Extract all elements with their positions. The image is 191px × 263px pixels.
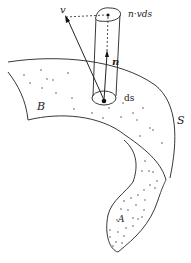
cap-center-point (106, 13, 109, 16)
surface-s-left-edge (8, 72, 28, 120)
cylinder-right-wall (116, 14, 120, 96)
surface-s-outer-edge (8, 59, 175, 178)
label-a: A (118, 215, 125, 224)
label-s: S (177, 115, 185, 126)
cylinder-left-wall (93, 17, 96, 96)
surface-s-inner-edge (28, 116, 166, 180)
normal-vector-n (104, 54, 107, 100)
label-ds: ds (124, 94, 134, 103)
label-n: n (112, 57, 119, 67)
normal-arrowhead-icon (105, 50, 109, 57)
label-b: B (37, 101, 45, 112)
region-a-outline (107, 140, 166, 252)
label-n-v-ds: n·vds (128, 10, 152, 19)
diagram-canvas (0, 0, 191, 263)
dashed-normal-extension (107, 17, 108, 52)
label-v: v (60, 5, 66, 15)
